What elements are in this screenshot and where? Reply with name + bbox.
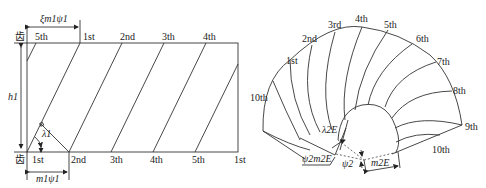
top-dimension-label: ξm1ψ1: [40, 13, 68, 25]
psi-label: ψ2: [342, 158, 353, 169]
fan-label-5th: 5th: [384, 19, 397, 30]
top-label-1: 5th: [35, 31, 48, 42]
fan-label-9th: 9th: [465, 121, 478, 132]
bottom-label-2: 2nd: [71, 154, 86, 165]
fan-label-10th-left: 10th: [250, 92, 268, 103]
helix-lines: [27, 43, 238, 152]
fan-tooth-diagram: 1st 2nd 3rd 4th 5th 6th 7th 8th 9th 10th…: [250, 13, 478, 172]
unrolled-tooth-diagram: 齿 齿 5th 1st 2nd 3th 4th 1st 2nd 3th 4th …: [8, 13, 246, 184]
top-tooth-marker: 齿: [15, 31, 25, 42]
diagram-canvas: 齿 齿 5th 1st 2nd 3th 4th 1st 2nd 3th 4th …: [0, 0, 486, 188]
fan-label-7th: 7th: [437, 56, 450, 67]
top-label-2: 1st: [83, 31, 95, 42]
fan-label-6th: 6th: [416, 33, 429, 44]
fan-label-1st: 1st: [286, 55, 298, 66]
fan-label-3rd: 3rd: [328, 19, 341, 30]
fan-label-10th-bottom: 10th: [432, 144, 450, 155]
top-label-4: 3th: [162, 31, 175, 42]
bottom-label-6: 1st: [234, 154, 246, 165]
fan-angle-label: λ2E: [321, 124, 337, 135]
fan-curves: [263, 27, 462, 150]
height-label: h1: [8, 91, 18, 102]
bottom-tooth-marker: 齿: [15, 154, 25, 165]
m2e-label: m2E: [371, 157, 389, 168]
fan-label-4th: 4th: [355, 13, 368, 24]
top-label-5: 4th: [203, 31, 216, 42]
top-label-3: 2nd: [120, 31, 135, 42]
bottom-label-5: 5th: [192, 154, 205, 165]
bottom-label-4: 4th: [150, 154, 163, 165]
arc-label: ψ2m2E: [302, 153, 332, 164]
tooth-rectangle: [27, 43, 238, 152]
bottom-label-1: 1st: [32, 154, 44, 165]
fan-label-8th: 8th: [453, 85, 466, 96]
bottom-dimension-label: m1ψ1: [36, 173, 59, 184]
bottom-label-3: 3th: [110, 154, 123, 165]
angle-label: λ1: [41, 128, 51, 139]
fan-label-2nd: 2nd: [302, 33, 317, 44]
